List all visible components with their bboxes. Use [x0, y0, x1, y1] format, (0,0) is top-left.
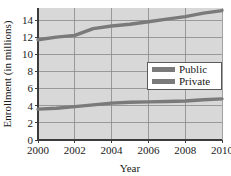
y-tick-label: 14: [22, 14, 34, 26]
x-tick-label: 2002: [64, 144, 86, 156]
y-tick-label: 6: [28, 82, 34, 94]
y-tick-label: 10: [22, 48, 34, 60]
x-tick-label: 2000: [27, 144, 50, 156]
legend-label-private: Private: [179, 75, 210, 87]
legend: Public Private: [147, 62, 221, 89]
x-tick-label: 2004: [101, 144, 124, 156]
x-tick-label: 2006: [137, 144, 160, 156]
y-tick-label: 2: [28, 117, 34, 129]
y-tick-label: 12: [22, 31, 33, 43]
legend-label-public: Public: [179, 63, 207, 75]
x-tick-label: 2008: [174, 144, 197, 156]
y-tick-label: 8: [28, 65, 34, 77]
y-tick-label: 4: [28, 100, 34, 112]
chart-canvas: 02468101214 200020022004200620082010 Yea…: [0, 0, 231, 176]
y-axis-title: Enrollment (in millions): [1, 20, 14, 127]
enrollment-line-chart: 02468101214 200020022004200620082010 Yea…: [0, 0, 231, 176]
x-tick-label: 2010: [211, 144, 231, 156]
x-axis-title: Year: [120, 162, 141, 174]
